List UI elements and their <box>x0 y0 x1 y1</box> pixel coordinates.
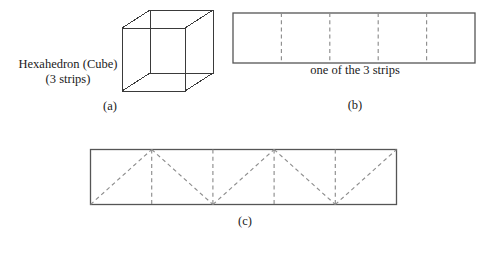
panel-c-strip <box>89 148 401 208</box>
cube-front-face <box>122 28 185 91</box>
panel-a-caption: (a) <box>80 99 140 113</box>
panel-b-strip <box>232 12 478 64</box>
cube-back-face <box>150 10 213 73</box>
strip-c-outline <box>91 150 397 205</box>
panel-a-label: Hexahedron (Cube) (3 strips) <box>4 57 132 87</box>
figure-root: Hexahedron (Cube) (3 strips) (a) <box>0 0 490 263</box>
strip-b-outline <box>233 13 475 63</box>
cube-wireframe <box>116 6 218 98</box>
cube-connecting-edges <box>122 10 213 91</box>
panel-c-caption: (c) <box>215 214 275 228</box>
panel-b-note: one of the 3 strips <box>275 63 435 77</box>
panel-a-label-line2: (3 strips) <box>4 72 132 87</box>
panel-a-label-line1: Hexahedron (Cube) <box>4 57 132 72</box>
panel-b-caption: (b) <box>325 98 385 112</box>
